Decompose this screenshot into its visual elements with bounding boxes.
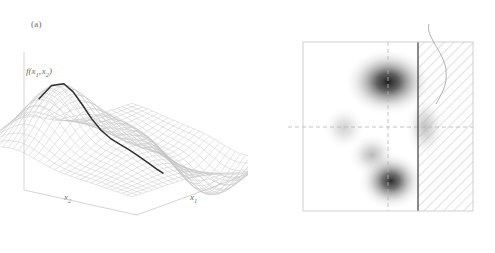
mesh-line <box>0 124 147 192</box>
panel-b-svg <box>248 0 495 253</box>
mesh-line <box>0 146 132 196</box>
mesh-line <box>18 86 173 183</box>
figure-container: (a) f(x1, x2) x2 x1 (b) x2 x1 x1≥1 <box>0 0 495 253</box>
mesh-line <box>0 133 142 193</box>
panel-a-surface-mesh <box>0 84 287 197</box>
mesh-line <box>3 105 158 188</box>
panel-b-contour-plot: (b) x2 x1 x1≥1 <box>248 0 495 253</box>
mesh-line <box>13 90 168 185</box>
panel-a-svg <box>0 0 248 253</box>
blob-bottom-dark <box>358 152 424 210</box>
mesh-line <box>60 120 215 174</box>
mesh-line <box>65 121 220 174</box>
panel-a-surface-plot: (a) f(x1, x2) x2 x1 <box>0 0 248 253</box>
